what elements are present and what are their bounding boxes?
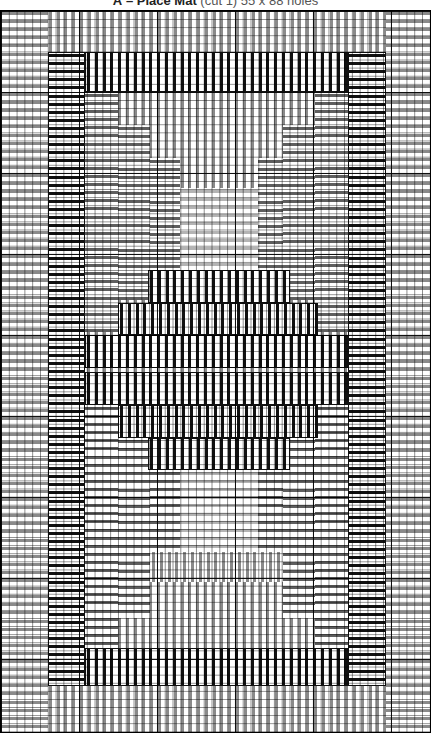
region-black-border-top [85,52,348,92]
region-center-light-top [180,188,258,270]
region-outer-border-right [386,10,431,733]
region-black-border-bottom [85,648,348,686]
title-name: Place Mat [137,0,197,8]
region-step-left-2-bottom [118,438,150,618]
region-outer-border-top [0,10,431,52]
region-step-left-3-top [150,158,180,270]
stitch-chart [0,10,431,733]
region-step-left-2-top [118,125,150,300]
region-diamond-row-1 [148,270,290,303]
region-diamond-row-4 [85,372,348,405]
region-black-border-right [348,52,386,686]
region-diamond-row-3 [85,335,348,368]
region-step-left-1-bottom [85,405,118,648]
chart-title: A – Place Mat (cut 1) 55 x 88 holes [0,0,431,8]
region-center-light-bottom [180,470,258,552]
region-step-right-1-top [315,92,348,332]
region-diamond-row-5 [118,405,318,438]
region-outer-border-left [0,10,48,733]
region-diamond-row-2 [118,303,318,335]
title-dash: – [126,0,133,8]
region-diamond-row-6 [148,438,290,470]
region-step-right-3-top [258,158,283,270]
region-center-grey-bottom [150,552,283,582]
region-step-left-1-top [85,92,118,332]
title-detail: (cut 1) 55 x 88 holes [200,0,318,8]
title-letter: A [113,0,122,8]
region-black-border-left [48,52,85,686]
region-outer-border-bottom [0,686,431,733]
region-step-right-1-bottom [315,405,348,648]
